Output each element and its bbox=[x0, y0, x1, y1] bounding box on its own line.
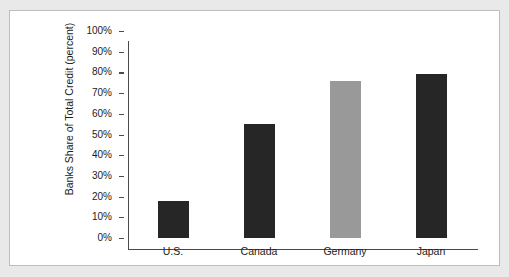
x-axis-label-germany: Germany bbox=[300, 245, 390, 257]
bar-u-s bbox=[158, 201, 189, 238]
x-axis-label-canada: Canada bbox=[214, 245, 304, 257]
figure-background: 0%10%20%30%40%50%60%70%80%90%100% Banks … bbox=[0, 0, 509, 277]
x-axis-label-japan: Japan bbox=[386, 245, 476, 257]
bar-germany bbox=[330, 81, 361, 238]
bars-layer bbox=[10, 31, 501, 238]
bar-japan bbox=[416, 74, 447, 238]
bar-canada bbox=[244, 124, 275, 238]
chart-panel: 0%10%20%30%40%50%60%70%80%90%100% Banks … bbox=[9, 10, 500, 266]
x-axis-label-u-s: U.S. bbox=[128, 245, 218, 257]
y-axis-tick bbox=[119, 238, 124, 239]
